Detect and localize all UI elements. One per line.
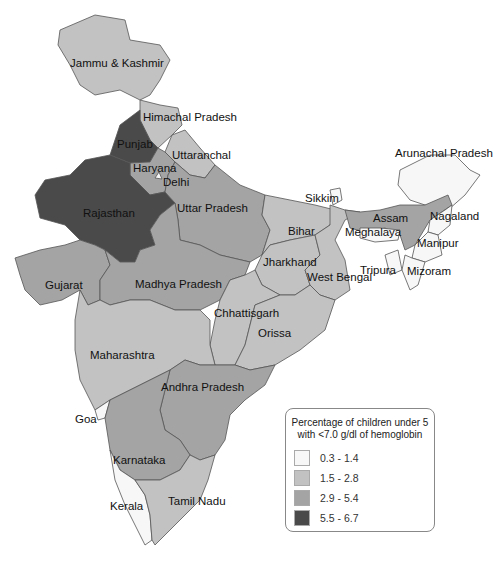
label-mizoram: Mizoram xyxy=(407,266,451,278)
legend-swatch xyxy=(294,450,310,466)
label-haryana: Haryana xyxy=(133,163,176,175)
label-meghalaya: Meghalaya xyxy=(345,227,401,239)
label-bihar: Bihar xyxy=(288,226,315,238)
label-nagaland: Nagaland xyxy=(430,211,479,223)
label-andhra-pradesh: Andhra Pradesh xyxy=(161,382,244,394)
map-legend: Percentage of children under 5 with <7.0… xyxy=(285,408,435,532)
legend-label: 5.5 - 6.7 xyxy=(320,512,359,524)
legend-swatch xyxy=(294,510,310,526)
label-delhi: Delhi xyxy=(163,177,189,189)
label-uttaranchal: Uttaranchal xyxy=(172,150,231,162)
label-himachal-pradesh: Himachal Pradesh xyxy=(143,112,237,124)
label-manipur: Manipur xyxy=(417,238,459,250)
label-maharashtra: Maharashtra xyxy=(90,350,155,362)
label-uttar-pradesh: Uttar Pradesh xyxy=(177,203,248,215)
label-assam: Assam xyxy=(373,213,408,225)
label-kerala: Kerala xyxy=(110,501,143,513)
legend-label: 2.9 - 5.4 xyxy=(320,492,359,504)
label-jharkhand: Jharkhand xyxy=(263,257,317,269)
legend-label: 0.3 - 1.4 xyxy=(320,452,359,464)
label-sikkim: Sikkim xyxy=(305,193,339,205)
legend-item: 0.3 - 1.4 xyxy=(294,449,434,467)
legend-label: 1.5 - 2.8 xyxy=(320,472,359,484)
label-karnataka: Karnataka xyxy=(113,455,165,467)
label-arunachal-pradesh: Arunachal Pradesh xyxy=(395,148,493,160)
legend-item: 1.5 - 2.8 xyxy=(294,469,434,487)
legend-item: 5.5 - 6.7 xyxy=(294,509,434,527)
label-punjab: Punjab xyxy=(117,139,153,151)
label-madhya-pradesh: Madhya Pradesh xyxy=(135,279,222,291)
label-orissa: Orissa xyxy=(258,328,291,340)
label-goa: Goa xyxy=(75,414,97,426)
legend-swatch xyxy=(294,490,310,506)
label-west-bengal: West Bengal xyxy=(307,272,372,284)
legend-swatch xyxy=(294,470,310,486)
label-chhattisgarh: Chhattisgarh xyxy=(214,308,279,320)
label-gujarat: Gujarat xyxy=(45,280,83,292)
legend-title-line1: Percentage of children under 5 xyxy=(286,417,434,429)
region-gujarat xyxy=(15,240,110,305)
label-rajasthan: Rajasthan xyxy=(83,208,135,220)
legend-item: 2.9 - 5.4 xyxy=(294,489,434,507)
legend-title-line2: with <7.0 g/dl of hemoglobin xyxy=(286,429,434,441)
label-jammu-kashmir: Jammu & Kashmir xyxy=(70,58,164,70)
label-tamil-nadu: Tamil Nadu xyxy=(168,496,226,508)
